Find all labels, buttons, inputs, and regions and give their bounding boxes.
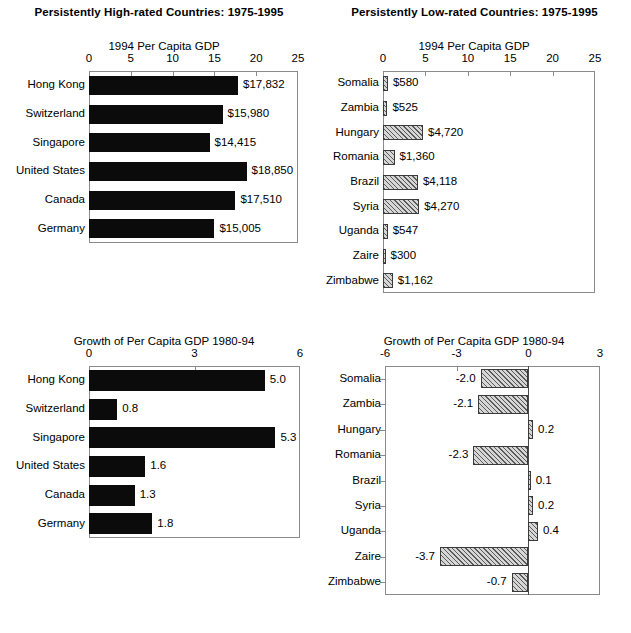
x-tick-mark — [425, 71, 426, 76]
chart-title-high-rated: Persistently High-rated Countries: 1975-… — [0, 6, 318, 18]
bar-value-label: -2.0 — [456, 373, 476, 385]
x-tick-label: -6 — [380, 347, 390, 359]
axis-title-high-rated-growth: Growth of Per Capita GDP 1980-94 — [30, 335, 298, 347]
category-label: Syria — [318, 500, 381, 512]
category-label: Somalia — [318, 373, 381, 385]
category-label: Brazil — [318, 475, 381, 487]
bar — [528, 522, 538, 541]
bar-value-label: -2.3 — [449, 449, 469, 461]
bar — [89, 399, 117, 420]
bar-value-label: $4,118 — [423, 176, 457, 188]
category-label: Zaire — [318, 551, 381, 563]
x-tick-label: 25 — [589, 52, 602, 64]
bar — [89, 219, 214, 238]
x-tick-label: -3 — [452, 347, 462, 359]
y-tick-mark — [380, 455, 385, 456]
x-tick-label: 10 — [166, 52, 179, 64]
x-tick-label: 0 — [380, 52, 386, 64]
category-label: Hong Kong — [0, 79, 85, 91]
chart-title-low-rated: Persistently Low-rated Countries: 1975-1… — [318, 6, 631, 18]
plot-area-high-rated-gdp — [89, 71, 298, 243]
axis-title-low-rated-gdp: 1994 Per Capita GDP — [338, 40, 610, 52]
x-tick-mark — [256, 71, 257, 76]
axis-title-low-rated-growth: Growth of Per Capita GDP 1980-94 — [338, 335, 610, 347]
bar-value-label: $18,850 — [252, 165, 294, 177]
y-tick-mark — [380, 506, 385, 507]
category-label: Syria — [318, 201, 379, 213]
bar-value-label: 1.6 — [150, 460, 166, 472]
x-tick-label: 5 — [422, 52, 428, 64]
bar — [89, 76, 238, 95]
bar-value-label: 0.2 — [538, 424, 554, 436]
bar — [89, 191, 235, 210]
category-label: Romania — [318, 151, 379, 163]
bar — [478, 395, 528, 414]
bar — [481, 369, 529, 388]
bar-value-label: 0.1 — [536, 475, 552, 487]
bar — [528, 496, 533, 515]
category-label: Uganda — [318, 225, 379, 237]
bar — [89, 162, 247, 181]
category-label: Uganda — [318, 525, 381, 537]
category-label: Somalia — [318, 77, 379, 89]
x-tick-label: 10 — [461, 52, 474, 64]
category-label: Zaire — [318, 250, 379, 262]
bar — [383, 150, 395, 165]
x-tick-label: 3 — [597, 347, 603, 359]
bar — [89, 456, 145, 477]
chart-panel-high-rated-gdp: Persistently High-rated Countries: 1975-… — [0, 0, 318, 318]
category-label: United States — [0, 460, 85, 472]
category-label: Zambia — [318, 102, 379, 114]
x-tick-label: 3 — [191, 347, 197, 359]
x-tick-label: 20 — [250, 52, 263, 64]
y-tick-mark — [380, 404, 385, 405]
bar-value-label: $580 — [393, 77, 419, 89]
bar-value-label: 5.0 — [270, 374, 286, 386]
category-label: Romania — [318, 449, 381, 461]
bar — [440, 547, 528, 566]
bar-value-label: $4,720 — [428, 127, 463, 139]
bar — [89, 133, 210, 152]
x-tick-mark — [553, 71, 554, 76]
axis-title-high-rated-gdp: 1994 Per Capita GDP — [30, 40, 298, 52]
bar-value-label: 1.8 — [157, 518, 173, 530]
category-label: Zimbabwe — [318, 275, 379, 287]
x-tick-label: 0 — [86, 52, 92, 64]
x-tick-mark — [457, 366, 458, 371]
category-label: Switzerland — [0, 108, 85, 120]
bar — [89, 370, 265, 391]
y-tick-mark — [380, 430, 385, 431]
bar — [89, 105, 223, 124]
chart-panel-high-rated-growth: Growth of Per Capita GDP 1980-94 036Hong… — [0, 318, 318, 633]
y-tick-mark — [380, 379, 385, 380]
bar — [512, 573, 529, 592]
bar-value-label: -2.1 — [453, 398, 473, 410]
bar — [383, 125, 423, 140]
y-tick-mark — [380, 531, 385, 532]
bar-value-label: 1.3 — [140, 489, 156, 501]
bar-value-label: -0.7 — [487, 576, 507, 588]
category-label: Zimbabwe — [318, 576, 381, 588]
category-label: Germany — [0, 223, 85, 235]
bar — [473, 446, 528, 465]
category-label: Germany — [0, 518, 85, 530]
bar — [383, 199, 419, 214]
category-label: Hong Kong — [0, 374, 85, 386]
category-label: Zambia — [318, 398, 381, 410]
category-label: Canada — [0, 489, 85, 501]
y-tick-mark — [380, 557, 385, 558]
bar — [383, 249, 386, 264]
bar — [383, 224, 388, 239]
bar-value-label: $15,980 — [228, 108, 270, 120]
bar-value-label: 0.2 — [538, 500, 554, 512]
category-label: Hungary — [318, 127, 379, 139]
category-label: Singapore — [0, 432, 85, 444]
bar-value-label: $15,005 — [219, 223, 261, 235]
category-label: Brazil — [318, 176, 379, 188]
bar — [528, 471, 530, 490]
x-tick-label: 15 — [504, 52, 517, 64]
bar — [89, 485, 135, 506]
x-tick-label: 25 — [292, 52, 305, 64]
bar — [383, 101, 387, 116]
y-tick-mark — [380, 481, 385, 482]
